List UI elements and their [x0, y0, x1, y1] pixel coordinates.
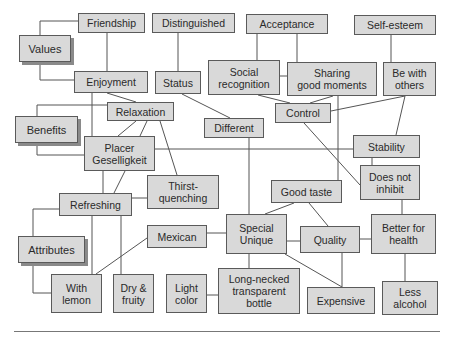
values-node: Values	[19, 35, 71, 62]
self-esteem-node: Self-esteem	[354, 15, 436, 35]
good-taste-node: Good taste	[271, 180, 342, 203]
special-unique-node: Special Unique	[226, 214, 287, 254]
status-node: Status	[155, 71, 201, 94]
relaxation-node: Relaxation	[107, 102, 174, 121]
control-node: Control	[275, 103, 331, 123]
thirst-quenching-node: Thirst- quenching	[147, 175, 219, 209]
sharing-good-moments-node: Sharing good moments	[287, 62, 377, 96]
less-alcohol-node: Less alcohol	[382, 281, 438, 315]
light-color-node: Light color	[166, 274, 207, 313]
attributes-node: Attributes	[18, 236, 85, 263]
distinguished-node: Distinguished	[152, 13, 235, 33]
social-recognition-node: Social recognition	[208, 60, 280, 95]
quality-node: Quality	[300, 226, 360, 253]
does-not-inhibit-node: Does not inhibit	[360, 165, 420, 200]
different-node: Different	[204, 118, 264, 138]
benefits-node: Benefits	[15, 116, 78, 143]
bottom-divider	[14, 331, 440, 332]
stability-node: Stability	[353, 135, 420, 158]
expensive-node: Expensive	[307, 287, 375, 314]
acceptance-node: Acceptance	[246, 14, 328, 34]
enjoyment-node: Enjoyment	[74, 71, 148, 93]
long-necked-bottle-node: Long-necked transparent bottle	[218, 268, 300, 314]
placer-geselligkeit-node: Placer Geselligkeit	[84, 136, 155, 171]
better-for-health-node: Better for health	[371, 214, 436, 254]
be-with-others-node: Be with others	[383, 62, 436, 96]
refreshing-node: Refreshing	[59, 193, 132, 216]
mexican-node: Mexican	[147, 225, 207, 248]
friendship-node: Friendship	[78, 13, 145, 33]
dry-fruity-node: Dry & fruity	[113, 274, 154, 313]
with-lemon-node: With lemon	[51, 274, 102, 313]
